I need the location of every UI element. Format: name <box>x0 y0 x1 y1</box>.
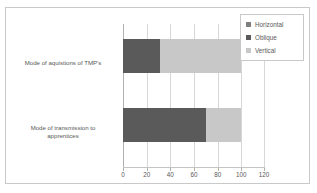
x-tick-label-0: 0 <box>111 171 135 178</box>
chart-legend: Horizontal Oblique Vertical <box>240 14 304 61</box>
legend-item-horizontal[interactable]: Horizontal <box>246 18 300 31</box>
category-label-acquisitions: Mode of aquistions of TMP's <box>11 59 115 67</box>
category-label-line2: apprentices <box>47 132 79 139</box>
bar-row-transmission[interactable] <box>123 108 241 142</box>
legend-item-vertical[interactable]: Vertical <box>246 44 300 57</box>
legend-swatch-vertical-icon <box>246 48 251 53</box>
legend-label-horizontal: Horizontal <box>255 21 283 28</box>
chart-frame: Mode of aquistions of TMP's Mode of tran… <box>5 7 310 184</box>
category-label-line1: Mode of transmission to <box>31 124 96 131</box>
bar-segment-vertical[interactable] <box>206 108 242 142</box>
category-label-line1: Mode of aquistions of TMP's <box>25 59 102 66</box>
x-tick-label-40: 40 <box>158 171 182 178</box>
legend-label-oblique: Oblique <box>255 34 277 41</box>
x-tick-label-80: 80 <box>206 171 230 178</box>
legend-swatch-oblique-icon <box>246 35 251 40</box>
bar-segment-oblique[interactable] <box>123 108 206 142</box>
x-tick-label-60: 60 <box>182 171 206 178</box>
x-tick-label-100: 100 <box>229 171 253 178</box>
bar-segment-vertical[interactable] <box>160 39 242 73</box>
category-label-transmission: Mode of transmission to apprentices <box>11 124 115 140</box>
bar-row-acquisitions[interactable] <box>123 39 241 73</box>
x-tick-label-20: 20 <box>135 171 159 178</box>
legend-swatch-horizontal-icon <box>246 22 251 27</box>
bar-segment-oblique[interactable] <box>123 39 160 73</box>
legend-label-vertical: Vertical <box>255 47 276 54</box>
x-tick-label-120: 120 <box>252 171 276 178</box>
legend-item-oblique[interactable]: Oblique <box>246 31 300 44</box>
